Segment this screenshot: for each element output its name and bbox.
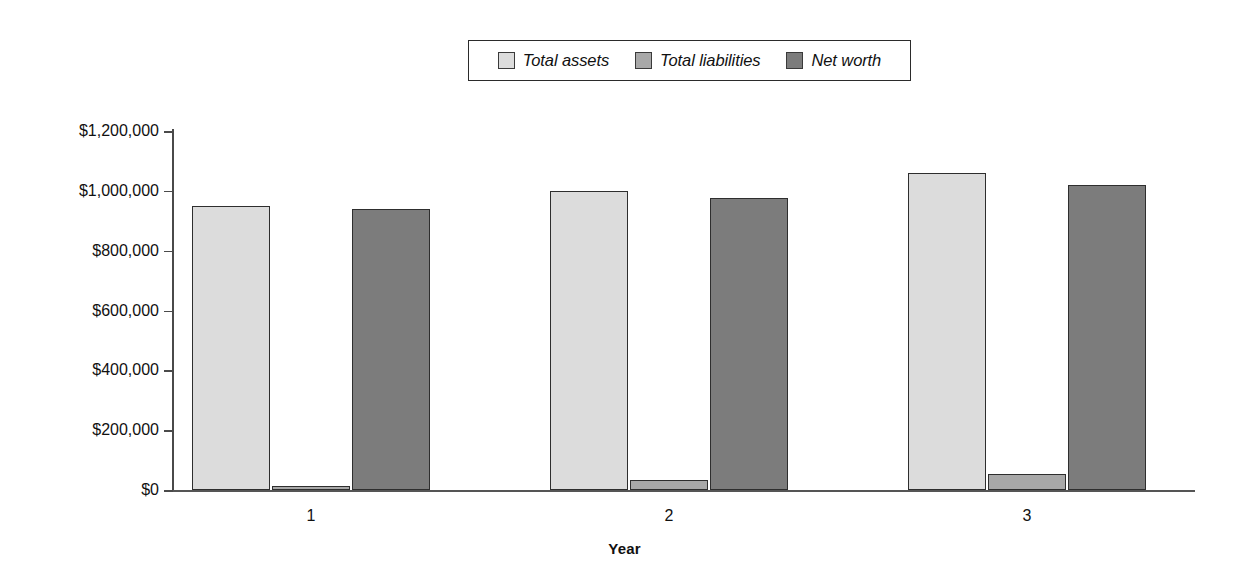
y-tick-mark <box>164 311 173 313</box>
legend-label-total-liabilities: Total liabilities <box>660 51 760 70</box>
y-tick-label: $0 <box>141 481 159 499</box>
y-tick-mark <box>164 131 173 133</box>
y-tick-label: $1,000,000 <box>79 182 159 200</box>
y-tick-mark <box>164 251 173 253</box>
y-tick-label: $600,000 <box>92 302 159 320</box>
bar-chart: Total assets Total liabilities Net worth… <box>0 0 1249 582</box>
chart-legend: Total assets Total liabilities Net worth <box>468 40 911 81</box>
bar-net-worth-year-1 <box>352 209 430 490</box>
x-axis-title: Year <box>0 540 1249 557</box>
legend-swatch-total-assets <box>498 52 515 69</box>
y-tick-mark <box>164 191 173 193</box>
bar-total-liabilities-year-2 <box>630 480 708 490</box>
legend-label-net-worth: Net worth <box>811 51 881 70</box>
bar-net-worth-year-3 <box>1068 185 1146 490</box>
y-tick-mark <box>164 370 173 372</box>
legend-label-total-assets: Total assets <box>523 51 609 70</box>
bar-total-liabilities-year-3 <box>988 474 1066 490</box>
y-tick-mark <box>164 490 173 492</box>
legend-item-total-assets: Total assets <box>498 51 609 70</box>
bar-total-liabilities-year-1 <box>272 486 350 490</box>
bar-total-assets-year-3 <box>908 173 986 490</box>
y-tick-label: $800,000 <box>92 242 159 260</box>
y-tick-mark <box>164 430 173 432</box>
y-tick-label: $400,000 <box>92 361 159 379</box>
y-tick-label: $1,200,000 <box>79 122 159 140</box>
bar-total-assets-year-2 <box>550 191 628 490</box>
x-tick-label-1: 1 <box>307 507 316 525</box>
y-tick-label: $200,000 <box>92 421 159 439</box>
legend-swatch-total-liabilities <box>635 52 652 69</box>
bar-net-worth-year-2 <box>710 198 788 490</box>
x-tick-label-2: 2 <box>665 507 674 525</box>
legend-item-total-liabilities: Total liabilities <box>635 51 760 70</box>
x-tick-label-3: 3 <box>1023 507 1032 525</box>
bar-total-assets-year-1 <box>192 206 270 490</box>
plot-area: $0$200,000$400,000$600,000$800,000$1,000… <box>173 131 1195 490</box>
legend-item-net-worth: Net worth <box>786 51 881 70</box>
legend-swatch-net-worth <box>786 52 803 69</box>
